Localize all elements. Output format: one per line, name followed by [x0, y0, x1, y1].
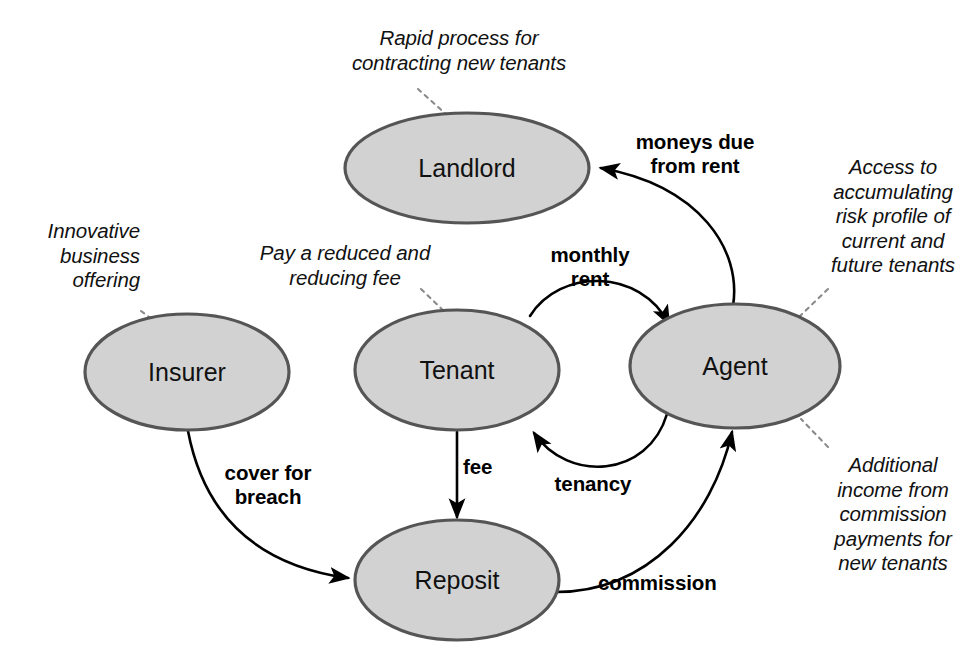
- node-landlord-label: Landlord: [418, 154, 515, 182]
- annotation-insurer: Innovative business offering: [0, 219, 140, 293]
- edge-label-commission: commission: [598, 571, 798, 595]
- leader-line-agent-bottom: [801, 419, 828, 447]
- node-reposit[interactable]: Reposit: [355, 520, 559, 640]
- diagram-root: Landlord Insurer Tenant Agent Reposit mo…: [0, 0, 968, 665]
- edge-agent-to-tenant: [534, 414, 667, 467]
- edge-label-cover-for-breach: cover for breach: [198, 461, 338, 509]
- leader-line-agent-top: [800, 289, 828, 316]
- edge-label-fee: fee: [463, 455, 543, 479]
- node-agent[interactable]: Agent: [630, 304, 840, 428]
- node-reposit-label: Reposit: [415, 566, 500, 594]
- edge-label-moneys-due-from-rent: moneys due from rent: [595, 130, 795, 178]
- edge-reposit-to-agent: [556, 432, 732, 592]
- leader-line-landlord: [418, 89, 447, 115]
- annotation-agent-income: Additional income from commission paymen…: [818, 453, 968, 576]
- annotation-landlord: Rapid process for contracting new tenant…: [311, 26, 607, 75]
- node-agent-label: Agent: [702, 352, 767, 380]
- annotation-tenant: Pay a reduced and reducing fee: [239, 241, 451, 290]
- edge-label-monthly-rent: monthly rent: [520, 243, 660, 291]
- annotation-agent-benefits: Access to accumulating risk profile of c…: [818, 155, 968, 278]
- node-landlord[interactable]: Landlord: [345, 113, 589, 223]
- node-insurer-label: Insurer: [148, 358, 226, 386]
- node-tenant-label: Tenant: [419, 356, 494, 384]
- edge-label-tenancy: tenancy: [528, 472, 658, 496]
- node-tenant[interactable]: Tenant: [355, 310, 559, 430]
- node-insurer[interactable]: Insurer: [85, 314, 289, 430]
